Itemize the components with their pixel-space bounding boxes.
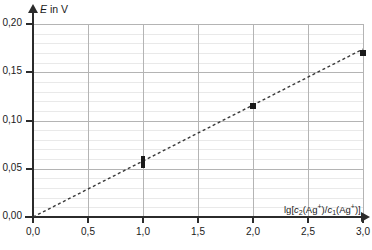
y-axis-tick: [26, 23, 33, 25]
x-axis-tick: [142, 216, 144, 223]
y-axis-tick: [26, 120, 33, 122]
y-axis-tick-label: 0,10: [0, 114, 22, 125]
y-axis-tick: [26, 168, 33, 170]
y-axis-tick-label: 0,00: [0, 210, 22, 221]
x-axis-tick: [197, 216, 199, 223]
y-axis-tick: [26, 71, 33, 73]
x-axis-tick: [87, 216, 89, 223]
y-axis-tick-label: 0,15: [0, 65, 22, 76]
trendline-path: [33, 49, 363, 217]
x-axis-tick: [307, 216, 309, 223]
y-axis-tick-label: 0,20: [0, 17, 22, 28]
x-axis-tick: [362, 216, 364, 223]
x-axis-tick: [32, 216, 34, 223]
x-axis-tick-label: 0,5: [68, 226, 108, 237]
x-axis-tick-label: 0,0: [13, 226, 53, 237]
x-axis-tick-label: 1,0: [123, 226, 163, 237]
trendline: [0, 0, 372, 250]
data-point: [250, 103, 256, 109]
x-axis-tick: [252, 216, 254, 223]
x-axis-tick-label: 3,0: [343, 226, 372, 237]
x-axis-tick-label: 2,0: [233, 226, 273, 237]
y-axis-tick-label: 0,05: [0, 162, 22, 173]
chart-container: E in V lg[c2(Ag+)/c1(Ag+)] 0,000,050,100…: [0, 0, 372, 250]
data-point: [360, 50, 366, 56]
data-point: [141, 156, 145, 168]
x-axis-tick-label: 2,5: [288, 226, 328, 237]
x-axis-tick-label: 1,5: [178, 226, 218, 237]
